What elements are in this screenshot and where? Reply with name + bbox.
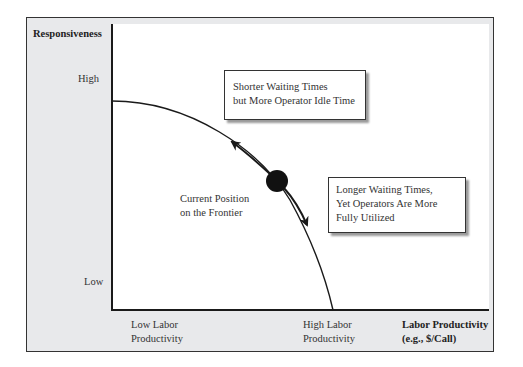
current-position-dot	[266, 170, 288, 192]
arrow-down-right-icon	[284, 188, 307, 225]
arrow-up-left-icon	[232, 142, 270, 174]
callout-longer-waiting: Longer Waiting Times, Yet Operators Are …	[328, 177, 466, 233]
callout-shorter-waiting: Shorter Waiting Times but More Operator …	[224, 70, 366, 120]
current-position-label: Current Position on the Frontier	[180, 192, 249, 220]
